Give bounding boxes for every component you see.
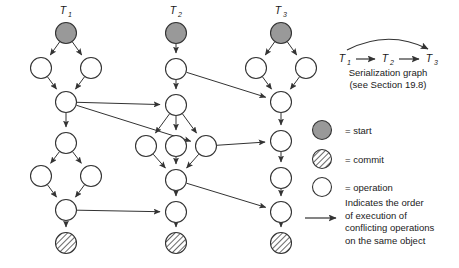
legend-label-commit: = commit xyxy=(345,154,384,165)
commit-node-t1-commit xyxy=(56,233,77,254)
operation-node-t3-e xyxy=(271,168,292,189)
operation-node-t3-c xyxy=(271,92,292,113)
operation-node-t2-e xyxy=(196,136,217,157)
edge-t1-f-to-t1-g xyxy=(75,185,84,197)
figure-container: T1T2T3 T1T2T3Serialization graph(see Sec… xyxy=(0,0,459,268)
serialization-node-T3: T3 xyxy=(426,52,438,66)
transaction-label-subscript: 2 xyxy=(177,11,182,18)
transaction-label-text: T xyxy=(275,4,283,16)
start-node-t1-start xyxy=(56,23,77,44)
edge-t3-a-to-t3-c xyxy=(263,77,272,89)
edge-t2-b-to-t2-c xyxy=(155,114,169,133)
edge-t1-a-to-t1-c xyxy=(48,77,57,89)
conflict-edge-t1-g-to-t2-g xyxy=(77,210,160,212)
edge-t3-start-to-t3-b xyxy=(287,42,296,55)
serialization-node-text: T xyxy=(339,52,347,64)
operation-node-t1-b xyxy=(81,58,102,79)
operation-node-t2-b xyxy=(166,95,187,116)
edge-t1-e-to-t1-g xyxy=(48,185,57,197)
edge-t1-start-to-t1-a xyxy=(50,42,59,55)
transaction-label-subscript: 1 xyxy=(68,11,72,18)
operation-node-t3-d xyxy=(271,131,292,152)
operation-node-t2-a xyxy=(166,59,187,80)
legend-arrow-note-line-1: Indicates the order xyxy=(345,197,424,208)
operation-node-t2-g xyxy=(166,202,187,223)
legend-arrow-note-line-3: conflicting operations xyxy=(345,222,434,233)
serialization-node-subscript: 2 xyxy=(389,59,394,66)
legend-swatch-start xyxy=(313,121,332,140)
serialization-curved-arrow xyxy=(347,39,428,50)
conflict-edge-t2-f-to-t3-f xyxy=(187,183,266,207)
legend-label-start: = start xyxy=(345,125,372,136)
operation-node-t1-d xyxy=(56,133,77,154)
transaction-labels: T1T2T3 xyxy=(60,4,287,18)
serialization-graph: T1T2T3Serialization graph(see Section 19… xyxy=(339,39,438,90)
legend-arrow-note-line-4: on the same object xyxy=(345,235,426,246)
start-node-t3-start xyxy=(271,23,292,44)
transaction-label-T2: T2 xyxy=(170,4,182,18)
operation-node-t2-d xyxy=(166,136,187,157)
edge-t3-b-to-t3-c xyxy=(290,77,299,89)
serialization-node-text: T xyxy=(382,52,390,64)
serialization-caption-line2: (see Section 19.8) xyxy=(349,79,426,90)
legend-swatch-commit xyxy=(313,150,332,169)
operation-node-t1-g xyxy=(56,200,77,221)
transaction-label-text: T xyxy=(170,4,178,16)
conflict-edge-t2-e-to-t3-d xyxy=(217,142,265,145)
operation-node-t2-f xyxy=(166,170,187,191)
serialization-node-text: T xyxy=(426,52,434,64)
transaction-label-T1: T1 xyxy=(60,4,72,18)
serialization-node-subscript: 1 xyxy=(347,59,351,66)
operation-node-t2-c xyxy=(136,136,157,157)
serialization-node-T2: T2 xyxy=(382,52,394,66)
legend-swatch-operation xyxy=(313,178,332,197)
commit-node-t3-commit xyxy=(271,233,292,254)
start-node-t2-start xyxy=(166,23,187,44)
edge-t2-c-to-t2-f xyxy=(153,154,165,168)
operation-nodes xyxy=(31,23,317,254)
operation-node-t1-c xyxy=(56,92,77,113)
transaction-label-T3: T3 xyxy=(275,4,287,18)
edge-t2-b-to-t2-e xyxy=(182,114,196,133)
operation-node-t3-b xyxy=(296,58,317,79)
operation-node-t3-f xyxy=(271,202,292,223)
conflict-edge-t1-c-to-t2-b xyxy=(77,102,160,104)
serialization-node-T1: T1 xyxy=(339,52,351,66)
operation-node-t3-a xyxy=(246,58,267,79)
edge-t1-start-to-t1-b xyxy=(72,42,81,55)
legend-label-operation: = operation xyxy=(345,182,393,193)
transaction-schedule-diagram: T1T2T3 T1T2T3Serialization graph(see Sec… xyxy=(0,0,459,268)
commit-node-t2-commit xyxy=(166,233,187,254)
edge-t1-d-to-t1-e xyxy=(51,152,60,163)
legend-arrow-note-line-2: of execution of xyxy=(345,210,407,221)
transaction-label-text: T xyxy=(60,4,68,16)
serialization-caption-line1: Serialization graph xyxy=(349,67,428,78)
edge-t1-d-to-t1-f xyxy=(73,152,82,163)
operation-node-t1-e xyxy=(31,166,52,187)
legend: = start= commit= operationIndicates the … xyxy=(305,121,434,246)
operation-node-t1-f xyxy=(81,166,102,187)
serialization-node-subscript: 3 xyxy=(434,59,438,66)
edge-t3-start-to-t3-a xyxy=(265,42,274,55)
transaction-label-subscript: 3 xyxy=(283,11,287,18)
operation-node-t1-a xyxy=(31,58,52,79)
edge-t2-e-to-t2-f xyxy=(187,154,199,168)
edge-t1-b-to-t1-c xyxy=(75,77,84,89)
